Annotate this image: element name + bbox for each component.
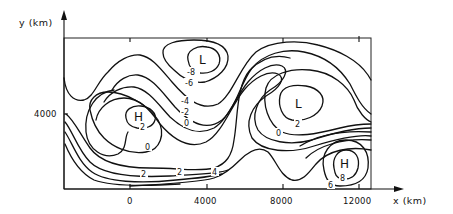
contour-label-minus-2: -2 [181, 108, 189, 117]
y-axis-arrow-icon [61, 10, 67, 20]
y-axis-label: y (km) [19, 17, 53, 28]
contour-low-east-zero [265, 70, 371, 135]
contour-label-minus-4: -4 [181, 97, 189, 106]
contour-label-two-east-low: 2 [295, 120, 300, 129]
x-tick-label-12000: 12000 [343, 196, 372, 206]
high-center-east: H [340, 157, 349, 171]
contour-label-minus-6: -6 [185, 79, 193, 88]
contour-label-four: 4 [212, 168, 217, 177]
contour-low-north-outer [163, 40, 228, 82]
x-axis-label: x (km) [393, 195, 427, 206]
x-tick-label-0: 0 [127, 196, 133, 206]
contour-label-eight: 8 [340, 174, 345, 183]
contour-label-zero-east: 0 [276, 129, 281, 138]
contour-label-two-lower: 2 [141, 170, 146, 179]
contour-label-two-bottom: 2 [177, 168, 182, 177]
y-tick-label-4000: 4000 [34, 109, 57, 119]
contour-label-zero-central: 0 [184, 119, 189, 128]
contour-label-minus-8: -8 [187, 68, 195, 77]
contour-label-two-west-high: 2 [140, 123, 145, 132]
high-center-west: H [134, 110, 143, 124]
x-tick-label-8000: 8000 [270, 196, 293, 206]
x-axis-arrow-icon [394, 186, 404, 192]
contour-label-zero-west: 0 [145, 143, 150, 152]
low-center-east: L [295, 97, 302, 111]
low-center-north: L [199, 53, 206, 67]
x-tick-label-4000: 4000 [194, 196, 217, 206]
contour-label-six: 6 [328, 181, 333, 190]
contour-figure: y (km) x (km) 0 4000 8000 12000 4000 L H… [0, 0, 453, 214]
